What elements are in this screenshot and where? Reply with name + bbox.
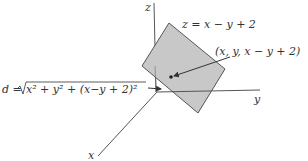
y-axis-label: y	[253, 93, 261, 106]
x-axis	[98, 92, 157, 156]
point-marker	[169, 75, 173, 79]
point-label: (x, y, x − y + 2)	[215, 45, 300, 58]
distance-label-radicand: x² + y² + (x−y + 2)²	[26, 83, 138, 96]
plane-equation-label: z = x − y + 2	[181, 18, 256, 31]
distance-leader-arrow	[148, 88, 161, 89]
x-axis-label: x	[88, 149, 95, 161]
z-axis-label: z	[144, 1, 151, 14]
distance-label-prefix: d =	[2, 83, 22, 96]
diagram-canvas: z y x z = x − y + 2 (x, y, x − y + 2) d …	[0, 0, 308, 161]
